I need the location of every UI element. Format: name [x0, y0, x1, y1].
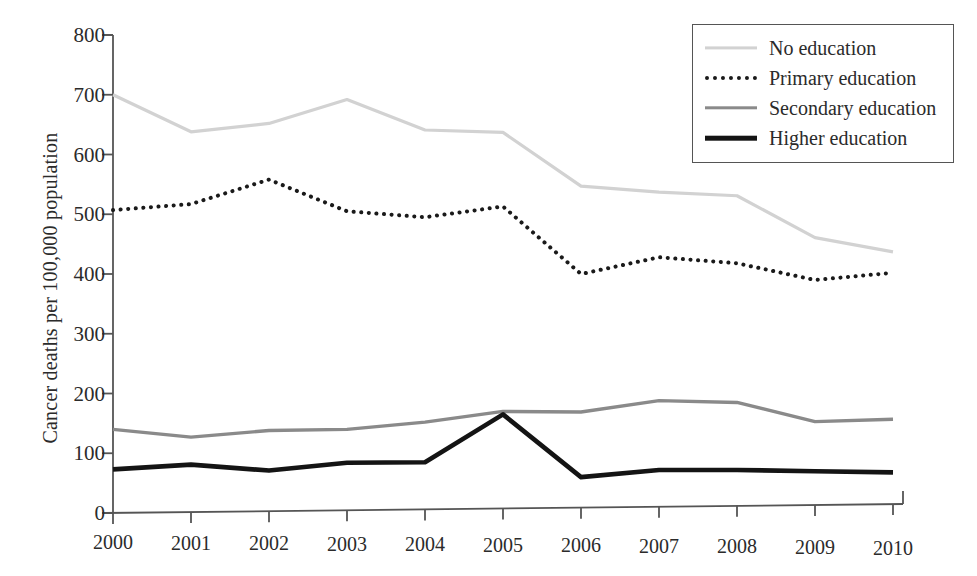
y-tick-label: 200 [74, 383, 106, 404]
legend-item-secondary-education[interactable]: Secondary education [705, 93, 943, 123]
x-tick-label: 2009 [795, 537, 835, 557]
y-axis-tick-labels: 0100200300400500600700800 [48, 0, 105, 576]
x-tick-label: 2007 [639, 536, 679, 556]
legend-item-no-education[interactable]: No education [705, 33, 943, 63]
y-tick-label: 500 [74, 204, 106, 225]
legend-label: Primary education [769, 68, 916, 88]
x-tick-label: 2003 [327, 534, 367, 554]
series-line-secondary-education [113, 401, 893, 437]
legend-label: Secondary education [769, 98, 936, 118]
x-axis-tick-labels: 2000200120022003200420052006200720082009… [0, 524, 977, 558]
y-tick-label: 400 [74, 264, 106, 285]
series-line-higher-education [113, 414, 893, 477]
chart-legend: No educationPrimary educationSecondary e… [692, 24, 954, 163]
x-tick-label: 2006 [561, 535, 601, 555]
legend-swatch-primary-education [705, 71, 757, 85]
x-tick-label: 2008 [717, 536, 757, 556]
y-tick-label: 800 [74, 25, 106, 46]
x-tick-label: 2000 [93, 532, 133, 552]
legend-item-primary-education[interactable]: Primary education [705, 63, 943, 93]
y-tick-label: 600 [74, 144, 106, 165]
legend-swatch-no-education [705, 41, 757, 55]
legend-item-higher-education[interactable]: Higher education [705, 123, 943, 153]
legend-swatch-higher-education [705, 131, 757, 145]
x-tick-label: 2005 [483, 535, 523, 555]
series-line-primary-education [113, 180, 893, 280]
legend-label: Higher education [769, 128, 907, 148]
y-tick-label: 100 [74, 443, 106, 464]
x-tick-label: 2001 [171, 533, 211, 553]
x-tick-label: 2004 [405, 534, 445, 554]
chart-figure: Cancer deaths per 100,000 population 010… [0, 0, 977, 576]
y-tick-label: 700 [74, 84, 106, 105]
y-tick-label: 300 [74, 323, 106, 344]
legend-label: No education [769, 38, 876, 58]
y-tick-label: 0 [95, 503, 106, 524]
x-tick-label: 2010 [873, 538, 913, 558]
x-tick-label: 2002 [249, 533, 289, 553]
legend-swatch-secondary-education [705, 101, 757, 115]
